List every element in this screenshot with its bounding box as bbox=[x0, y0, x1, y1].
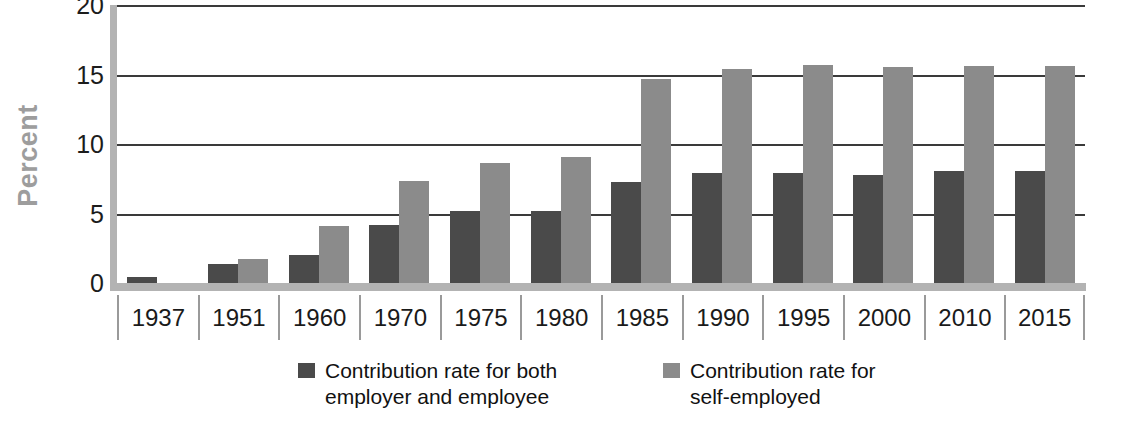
bar bbox=[641, 79, 671, 283]
bar bbox=[853, 175, 883, 283]
x-category-1995: 1995 bbox=[762, 295, 843, 340]
bars-layer bbox=[117, 0, 1085, 283]
bar bbox=[803, 65, 833, 283]
bar bbox=[208, 264, 238, 283]
plot-area bbox=[110, 0, 1090, 300]
legend-swatch-icon bbox=[298, 363, 315, 378]
bar-group bbox=[450, 0, 510, 283]
bar bbox=[369, 225, 399, 283]
bar-group bbox=[692, 0, 752, 283]
x-axis-baseline bbox=[110, 283, 1086, 291]
bar bbox=[722, 69, 752, 283]
x-category-1985: 1985 bbox=[601, 295, 682, 340]
bar bbox=[1045, 66, 1075, 283]
bar bbox=[1015, 171, 1045, 283]
x-category-1951: 1951 bbox=[198, 295, 279, 340]
bar-group bbox=[531, 0, 591, 283]
bar bbox=[773, 173, 803, 283]
bar bbox=[319, 226, 349, 283]
x-category-1937: 1937 bbox=[117, 295, 198, 340]
y-tick-15: 15 bbox=[50, 62, 104, 87]
x-category-1980: 1980 bbox=[520, 295, 601, 340]
y-axis-line bbox=[110, 5, 117, 290]
bar bbox=[883, 67, 913, 283]
bar bbox=[692, 173, 722, 283]
x-category-1975: 1975 bbox=[440, 295, 521, 340]
y-axis-title-text: Percent bbox=[13, 104, 44, 207]
x-category-2015: 2015 bbox=[1004, 295, 1085, 340]
bar bbox=[611, 182, 641, 283]
bar bbox=[289, 255, 319, 283]
bar-group bbox=[289, 0, 349, 283]
x-category-2010: 2010 bbox=[924, 295, 1005, 340]
legend-item[interactable]: Contribution rate forself-employed bbox=[663, 358, 876, 410]
x-axis-category-labels: 1937195119601970197519801985199019952000… bbox=[117, 295, 1085, 340]
bar-group bbox=[127, 0, 187, 283]
bar-group bbox=[934, 0, 994, 283]
bar-group bbox=[208, 0, 268, 283]
bar bbox=[964, 66, 994, 283]
bar bbox=[561, 157, 591, 283]
y-tick-20: 20 bbox=[50, 0, 104, 18]
bar-group bbox=[611, 0, 671, 283]
y-tick-10: 10 bbox=[50, 132, 104, 157]
bar-group bbox=[1015, 0, 1075, 283]
x-category-1990: 1990 bbox=[682, 295, 763, 340]
legend-swatch-icon bbox=[663, 363, 680, 378]
bar-group bbox=[853, 0, 913, 283]
chart-legend: Contribution rate for bothemployer and e… bbox=[0, 358, 1121, 424]
bar-group bbox=[773, 0, 833, 283]
bar bbox=[480, 163, 510, 283]
legend-label: Contribution rate forself-employed bbox=[690, 358, 876, 410]
x-category-2000: 2000 bbox=[843, 295, 924, 340]
x-category-1960: 1960 bbox=[278, 295, 359, 340]
bar-chart: Percent 05101520 19371951196019701975198… bbox=[0, 0, 1121, 427]
bar bbox=[399, 181, 429, 283]
bar-group bbox=[369, 0, 429, 283]
bar bbox=[450, 211, 480, 283]
bar bbox=[531, 211, 561, 283]
legend-label: Contribution rate for bothemployer and e… bbox=[325, 358, 557, 410]
bar bbox=[127, 277, 157, 283]
bar bbox=[934, 171, 964, 283]
x-category-1970: 1970 bbox=[359, 295, 440, 340]
legend-item[interactable]: Contribution rate for bothemployer and e… bbox=[298, 358, 557, 410]
bar bbox=[238, 259, 268, 283]
y-tick-5: 5 bbox=[50, 201, 104, 226]
y-tick-0: 0 bbox=[50, 271, 104, 296]
